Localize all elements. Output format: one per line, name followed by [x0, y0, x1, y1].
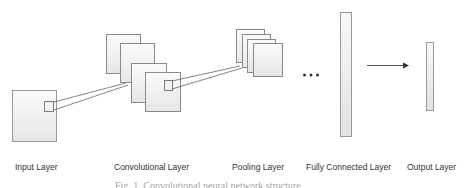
cnn-diagram	[0, 0, 466, 188]
conv-kernel-window	[165, 81, 173, 91]
conv-feature-map-4	[146, 73, 181, 112]
conv-to-pool-connector	[172, 66, 242, 89]
pool-layer	[237, 30, 283, 77]
pool-layer-label: Pooling Layer	[232, 162, 284, 172]
fc-layer-bar	[341, 13, 352, 137]
input-kernel-window	[45, 102, 54, 112]
pool-feature-map-4	[254, 44, 283, 77]
arrow-right-icon	[367, 63, 409, 69]
input-feature-map	[13, 91, 57, 142]
conv-layer	[107, 35, 181, 112]
input-to-conv-connector	[54, 83, 128, 110]
conv-layer-label: Convolutional Layer	[114, 162, 189, 172]
input-layer	[13, 91, 57, 142]
input-layer-label: Input Layer	[15, 162, 58, 172]
output-layer-label: Output Layer	[407, 162, 456, 172]
figure-caption: Fig. 1. Convolutional neural network str…	[115, 180, 301, 188]
output-layer-bar	[427, 43, 434, 111]
fc-layer-label: Fully Connected Layer	[306, 162, 391, 172]
ellipsis-icon	[303, 74, 319, 77]
